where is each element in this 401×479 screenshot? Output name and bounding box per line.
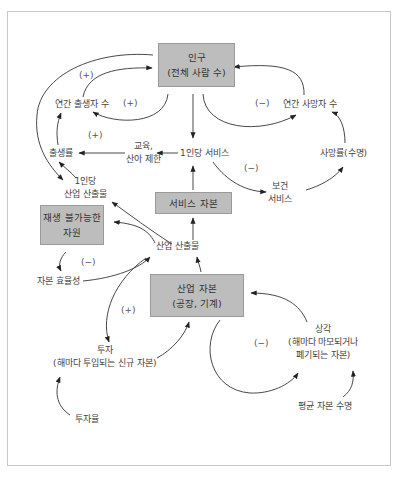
var-education: 교육, 산아 제한 [126, 140, 161, 166]
link-indoutput-to-investment [106, 258, 146, 342]
var-capital-efficiency: 자본 효율성 [37, 275, 80, 288]
var-depreciation: 상각 (해마다 마모되거나 폐기되는 자본) [288, 323, 358, 362]
industrial-capital-label: 산업 자본 [177, 281, 216, 296]
sign-births-outer: (+) [79, 70, 94, 80]
var-services-per-capita: 1인당 서비스 [180, 147, 229, 160]
link-health-to-deathrate [306, 167, 343, 190]
depreciation-line2: (해마다 마모되거나 [288, 336, 358, 349]
nonrenewable-sublabel: 자원 [63, 225, 81, 240]
education-line2: 산아 제한 [126, 153, 161, 166]
investment-line1: 투자 [53, 344, 157, 357]
industrial-capital-sublabel: (공장, 기계) [172, 296, 221, 311]
sign-birth-rate-loop: (+) [88, 130, 103, 140]
link-birthrate-to-births [57, 113, 61, 145]
sign-deaths: (−) [255, 98, 270, 108]
nonrenewable-label: 재생 불가능한 [43, 210, 100, 225]
sign-births-inner: (+) [123, 98, 138, 108]
sign-investment: (+) [121, 305, 136, 315]
var-birth-rate: 출생률 [49, 147, 73, 160]
sign-resources: (−) [81, 257, 96, 267]
var-industrial-output: 산업 산출물 [156, 240, 199, 253]
link-rate-to-investment [57, 377, 70, 415]
stock-industrial-capital[interactable]: 산업 자본 (공장, 기계) [150, 274, 244, 317]
health-line2: 서비스 [268, 193, 292, 206]
depreciation-line1: 상각 [288, 323, 358, 336]
var-death-rate: 사망률(수명) [320, 147, 367, 160]
sign-health: (−) [244, 163, 259, 173]
link-indcapital-to-indoutput [197, 257, 201, 272]
ind-per-capita-line2: 산업 산출물 [64, 188, 107, 201]
health-line1: 보건 [268, 180, 292, 193]
var-deaths-per-year: 연간 사망자 수 [283, 98, 337, 111]
var-investment-rate: 투자율 [75, 413, 99, 426]
link-deaths-to-population [234, 66, 304, 95]
var-health-services: 보건 서비스 [268, 180, 292, 206]
investment-line2: (해마다 투입되는 신규 자본) [53, 357, 157, 370]
link-deathrate-to-deaths [332, 112, 345, 143]
var-average-capital-lifetime: 평균 자본 수명 [298, 400, 352, 413]
stock-service-capital[interactable]: 서비스 자본 [155, 192, 232, 214]
var-births-per-year: 연간 출생자 수 [55, 98, 109, 111]
var-investment: 투자 (해마다 투입되는 신규 자본) [53, 344, 157, 370]
link-depreciation-to-indcapital [251, 293, 307, 322]
service-capital-label: 서비스 자본 [169, 196, 217, 211]
link-investment-to-indcapital [157, 322, 189, 358]
link-indcapital-to-depreciation [210, 320, 298, 393]
link-lifetime-to-depreciation [343, 371, 353, 397]
ind-per-capita-line1: 1인당 [64, 175, 107, 188]
link-resources-to-efficiency [60, 252, 66, 271]
population-sublabel: (전체 사람 수) [167, 65, 225, 80]
var-industrial-output-per-capita: 1인당 산업 산출물 [64, 175, 107, 201]
link-indoutput-to-resources [114, 222, 155, 243]
depreciation-line3: 폐기되는 자본) [288, 349, 358, 362]
sign-depreciation: (−) [254, 338, 269, 348]
stock-population[interactable]: 인구 (전체 사람 수) [158, 43, 235, 87]
stock-nonrenewable-resources[interactable]: 재생 불가능한 자원 [40, 205, 104, 245]
education-line1: 교육, [126, 140, 161, 153]
population-label: 인구 [188, 50, 206, 65]
